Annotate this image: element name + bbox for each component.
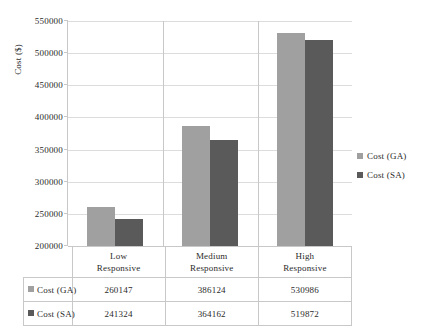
- y-axis-tick-label: 550000: [35, 16, 63, 26]
- y-axis-title: Cost ($): [12, 4, 24, 84]
- category-header-line: Responsive: [166, 262, 258, 274]
- data-table: LowResponsiveMediumResponsiveHighRespons…: [23, 246, 352, 326]
- legend-swatch-icon: [357, 153, 363, 159]
- y-axis-tick-label: 350000: [35, 145, 63, 155]
- bar-group: [163, 21, 258, 246]
- category-header-line: Low: [73, 250, 165, 262]
- bar[interactable]: [115, 219, 143, 246]
- y-axis-tick-label: 500000: [35, 48, 63, 58]
- table-corner-spacer: [24, 247, 73, 278]
- category-separator: [258, 21, 259, 246]
- table-value-cell: 530986: [258, 278, 351, 302]
- plot-area: 5500005000004500004000003500003000002500…: [67, 21, 352, 246]
- legend-item-label: Cost (GA): [367, 151, 407, 161]
- category-header-cell: MediumResponsive: [165, 247, 258, 278]
- legend-item-label: Cost (SA): [367, 170, 405, 180]
- y-axis-tick-label: 300000: [35, 177, 63, 187]
- category-header-cell: LowResponsive: [72, 247, 165, 278]
- chart-legend: Cost (GA)Cost (SA): [357, 146, 407, 184]
- bar[interactable]: [182, 126, 210, 246]
- bar[interactable]: [87, 207, 115, 246]
- category-header-cell: HighResponsive: [258, 247, 351, 278]
- bar[interactable]: [277, 33, 305, 246]
- legend-item[interactable]: Cost (SA): [357, 165, 407, 184]
- legend-swatch-icon: [28, 310, 34, 316]
- table-value-cell: 364162: [165, 302, 258, 326]
- series-label-cell: Cost (SA): [24, 302, 73, 326]
- table-row: Cost (SA)241324364162519872: [24, 302, 352, 326]
- category-separator: [163, 21, 164, 246]
- y-axis-tick-label: 450000: [35, 80, 63, 90]
- table-value-cell: 386124: [165, 278, 258, 302]
- table-value-cell: 519872: [258, 302, 351, 326]
- table-value-cell: 241324: [72, 302, 165, 326]
- bar[interactable]: [210, 140, 238, 246]
- bar-group: [257, 21, 352, 246]
- table-value-cell: 260147: [72, 278, 165, 302]
- series-label-text: Cost (GA): [37, 285, 77, 295]
- y-axis-tick-label: 400000: [35, 112, 63, 122]
- y-axis-title-label: Cost ($): [12, 44, 24, 124]
- category-header-line: Responsive: [73, 262, 165, 274]
- series-label-text: Cost (SA): [37, 309, 75, 319]
- bar[interactable]: [305, 40, 333, 246]
- y-axis-tick-label: 250000: [35, 209, 63, 219]
- legend-item[interactable]: Cost (GA): [357, 146, 407, 165]
- legend-swatch-icon: [357, 172, 363, 178]
- bar-group: [68, 21, 163, 246]
- table-row: Cost (GA)260147386124530986: [24, 278, 352, 302]
- category-header-line: Responsive: [259, 262, 351, 274]
- table-row: LowResponsiveMediumResponsiveHighRespons…: [24, 247, 352, 278]
- legend-swatch-icon: [28, 286, 34, 292]
- category-header-line: High: [259, 250, 351, 262]
- series-label-cell: Cost (GA): [24, 278, 73, 302]
- bar-groups: [68, 21, 352, 246]
- category-header-line: Medium: [166, 250, 258, 262]
- chart-figure: Cost ($) 5500005000004500004000003500003…: [0, 0, 429, 327]
